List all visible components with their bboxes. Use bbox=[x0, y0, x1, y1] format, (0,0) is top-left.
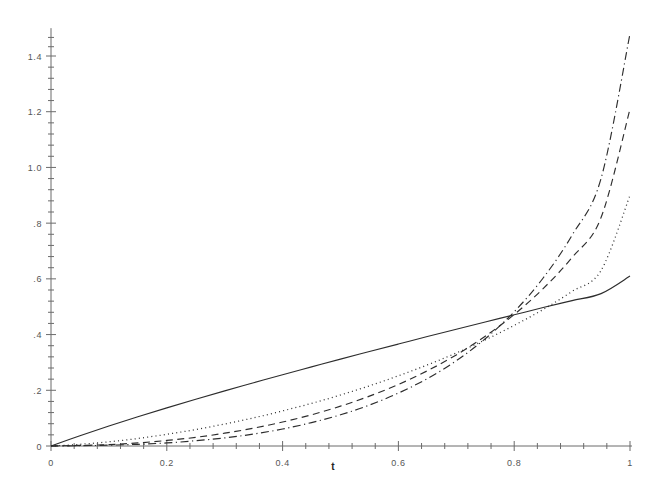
tick-labels: 00.20.40.60.810.2.4.6.81.01.21.4 bbox=[28, 52, 633, 469]
axes bbox=[46, 28, 632, 451]
y-tick-label: .2 bbox=[33, 386, 42, 396]
x-tick-label: 0.2 bbox=[160, 458, 174, 468]
series-curve-1 bbox=[51, 276, 630, 446]
curves bbox=[51, 34, 630, 446]
y-tick-label: .6 bbox=[33, 274, 42, 284]
series-curve-4 bbox=[51, 34, 630, 446]
y-tick-label: 1.0 bbox=[28, 163, 42, 173]
line-plot: 00.20.40.60.810.2.4.6.81.01.21.4 t bbox=[0, 0, 651, 485]
x-axis-title: t bbox=[331, 461, 335, 472]
series-curve-2 bbox=[51, 195, 630, 446]
y-tick-label: .8 bbox=[33, 219, 42, 229]
x-tick-label: 0.4 bbox=[275, 458, 289, 468]
x-tick-label: 1 bbox=[627, 458, 633, 468]
chart-container: 00.20.40.60.810.2.4.6.81.01.21.4 t bbox=[0, 0, 651, 485]
x-tick-label: 0.6 bbox=[391, 458, 405, 468]
x-tick-label: 0 bbox=[48, 458, 54, 468]
y-tick-label: 0 bbox=[36, 442, 42, 452]
y-tick-label: 1.4 bbox=[28, 52, 42, 62]
y-tick-label: .4 bbox=[33, 330, 42, 340]
x-tick-label: 0.8 bbox=[507, 458, 521, 468]
y-tick-label: 1.2 bbox=[28, 107, 42, 117]
